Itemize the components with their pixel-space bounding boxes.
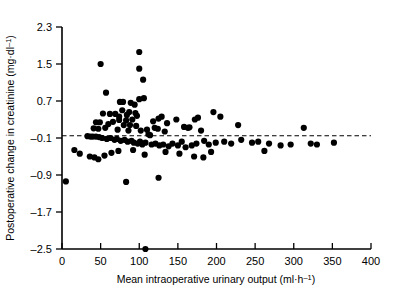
data-point — [301, 125, 307, 131]
data-point — [63, 178, 69, 184]
data-point — [108, 150, 114, 156]
data-point — [150, 118, 156, 124]
data-point — [186, 124, 192, 130]
data-point — [208, 149, 214, 155]
data-point — [142, 140, 148, 146]
data-point — [121, 122, 127, 128]
data-point — [200, 154, 206, 160]
data-point — [255, 139, 261, 145]
data-points — [63, 49, 337, 252]
data-point — [142, 152, 148, 158]
x-tick-label: 300 — [285, 255, 303, 267]
data-point — [129, 116, 135, 122]
x-tick-label: 100 — [130, 255, 148, 267]
data-point — [213, 140, 219, 146]
x-axis-ticks — [62, 243, 371, 249]
y-tick-label: 2.3 — [37, 21, 52, 33]
data-point — [176, 151, 182, 157]
data-point — [127, 122, 133, 128]
data-point — [249, 140, 255, 146]
data-point — [235, 122, 241, 128]
data-point — [138, 128, 144, 134]
y-axis-title: Postoperative change in creatinine (mg·d… — [4, 35, 17, 241]
data-point — [101, 152, 107, 158]
data-point — [193, 140, 199, 146]
data-point — [136, 66, 142, 72]
y-tick-label: –0.9 — [31, 169, 52, 181]
data-point — [266, 140, 272, 146]
data-point — [195, 115, 201, 121]
data-point — [115, 127, 121, 133]
data-point — [102, 125, 108, 131]
data-point — [198, 128, 204, 134]
data-point — [160, 141, 166, 147]
data-point — [191, 153, 197, 159]
data-point — [261, 148, 267, 154]
data-point — [107, 111, 113, 117]
data-point — [100, 110, 106, 116]
x-tick-label: 150 — [169, 255, 187, 267]
data-point — [141, 95, 147, 101]
x-tick-label: 50 — [95, 255, 107, 267]
data-point — [136, 49, 142, 55]
y-tick-label: –2.5 — [31, 243, 52, 255]
x-tick-label: 400 — [362, 255, 380, 267]
data-point — [228, 140, 234, 146]
data-point — [147, 132, 153, 138]
data-point — [155, 126, 161, 132]
data-point — [221, 139, 227, 145]
scatter-plot-figure: –2.5–1.7–0.9–0.10.71.52.3 05010015020025… — [0, 0, 401, 300]
data-point — [119, 107, 125, 113]
x-tick-label: 250 — [246, 255, 264, 267]
data-point — [125, 128, 131, 134]
data-point — [124, 112, 130, 118]
data-point — [164, 120, 170, 126]
data-point — [77, 151, 83, 157]
x-tick-label: 0 — [59, 255, 65, 267]
y-tick-label: –1.7 — [31, 206, 52, 218]
data-point — [95, 126, 101, 132]
data-point — [98, 61, 104, 67]
chart-canvas: –2.5–1.7–0.9–0.10.71.52.3 05010015020025… — [0, 0, 401, 300]
data-point — [278, 142, 284, 148]
data-point — [288, 141, 294, 147]
y-axis-tick-labels: –2.5–1.7–0.9–0.10.71.52.3 — [31, 21, 52, 255]
y-tick-label: 0.7 — [37, 95, 52, 107]
data-point — [140, 77, 146, 83]
data-point — [210, 109, 216, 115]
data-point — [169, 140, 175, 146]
data-point — [71, 147, 77, 153]
y-tick-label: –0.1 — [31, 132, 52, 144]
y-tick-label: 1.5 — [37, 58, 52, 70]
data-point — [132, 102, 138, 108]
data-point — [116, 117, 122, 123]
data-point — [206, 141, 212, 147]
data-point — [97, 119, 103, 125]
data-point — [162, 149, 168, 155]
data-point — [331, 140, 337, 146]
x-tick-label: 200 — [207, 255, 225, 267]
x-axis-title: Mean intraoperative urinary output (ml·h… — [117, 273, 316, 286]
data-point — [142, 246, 148, 252]
data-point — [103, 90, 109, 96]
data-point — [115, 148, 121, 154]
data-point — [95, 156, 101, 162]
data-point — [217, 114, 223, 120]
data-point — [162, 128, 168, 134]
data-point — [183, 144, 189, 150]
data-point — [133, 123, 139, 129]
data-point — [173, 116, 179, 122]
data-point — [238, 137, 244, 143]
data-point — [130, 147, 136, 153]
data-point — [314, 141, 320, 147]
data-point — [155, 175, 161, 181]
y-axis-ticks — [56, 27, 62, 249]
data-point — [120, 99, 126, 105]
x-axis-tick-labels: 050100150200250300350400 — [59, 255, 380, 267]
data-point — [179, 139, 185, 145]
data-point — [159, 114, 165, 120]
data-point — [308, 140, 314, 146]
x-tick-label: 350 — [323, 255, 341, 267]
data-point — [123, 179, 129, 185]
